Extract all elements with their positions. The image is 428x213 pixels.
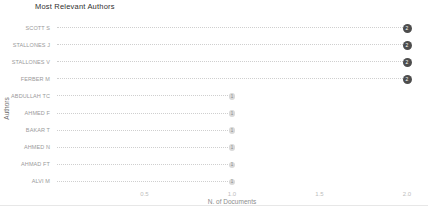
dot-marker-filled: 2	[403, 58, 412, 67]
lollipop-stem	[57, 147, 232, 148]
lollipop-stem	[57, 130, 232, 131]
lollipop-stem	[57, 113, 232, 114]
author-label: AHMED F	[0, 110, 50, 116]
dot-marker-light: 1	[229, 127, 236, 134]
dot-marker-light: 1	[229, 144, 236, 151]
x-tick-label: 1.5	[310, 191, 330, 197]
author-label: AHMED N	[0, 144, 50, 150]
dot-marker-filled: 2	[403, 41, 412, 50]
chart-title: Most Relevant Authors	[35, 2, 115, 11]
lollipop-stem	[57, 95, 232, 96]
dot-marker-filled: 2	[403, 24, 412, 33]
dot-marker-light: 1	[229, 110, 236, 117]
author-label: STALLONES J	[0, 42, 50, 48]
bottom-divider	[0, 205, 428, 206]
author-label: STALLONES V	[0, 59, 50, 65]
lollipop-stem	[57, 164, 232, 165]
plot-area: SCOTT S2STALLONES J2STALLONES V2FERBER M…	[0, 18, 428, 190]
dot-marker-light: 1	[229, 162, 236, 169]
lollipop-stem	[57, 181, 232, 182]
lollipop-stem	[57, 44, 407, 45]
author-label: AHMAD FT	[0, 161, 50, 167]
author-label: FERBER M	[0, 76, 50, 82]
author-label: SCOTT S	[0, 25, 50, 31]
lollipop-stem	[57, 27, 407, 28]
author-label: ALVI M	[0, 178, 50, 184]
author-label: BAKAR T	[0, 127, 50, 133]
lollipop-stem	[57, 61, 407, 62]
dot-marker-light: 1	[229, 179, 236, 186]
author-label: ABDULLAH TC	[0, 93, 50, 99]
x-tick-label: 2.0	[397, 191, 417, 197]
x-axis-label: N. of Documents	[162, 198, 302, 205]
most-relevant-authors-chart: Most Relevant Authors Authors SCOTT S2ST…	[0, 0, 428, 213]
x-tick-label: 1.0	[222, 191, 242, 197]
dot-marker-light: 1	[229, 93, 236, 100]
dot-marker-filled: 2	[403, 75, 412, 84]
x-tick-label: 0.5	[135, 191, 155, 197]
lollipop-stem	[57, 78, 407, 79]
